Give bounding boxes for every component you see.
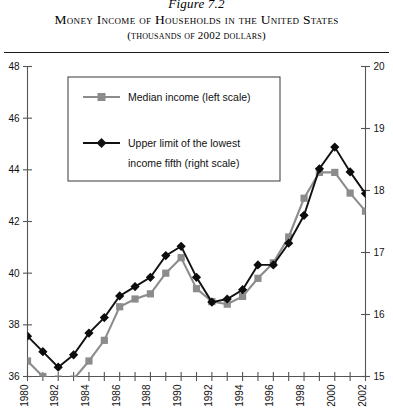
left-axis-tick-label: 42: [8, 216, 20, 227]
left-axis-tick-label: 38: [8, 319, 20, 330]
left-axis-tick-label: 44: [8, 164, 20, 175]
data-point-marker: [147, 290, 154, 297]
right-axis-tick-label: 17: [374, 247, 386, 258]
x-axis-tick-label: 1982: [49, 384, 60, 407]
x-axis-tick-label: 1998: [295, 384, 306, 407]
data-point-marker: [331, 169, 338, 176]
data-point-marker: [24, 357, 31, 364]
legend-label-upper-line1: Upper limit of the lowest: [128, 137, 240, 149]
chart-legend: Median income (left scale)Upper limit of…: [68, 77, 280, 181]
right-axis-tick-label: 20: [374, 61, 386, 72]
data-point-marker: [85, 357, 92, 364]
right-axis-tick-label: 15: [374, 371, 386, 382]
data-point-marker: [362, 208, 369, 215]
left-axis-tick-label: 48: [8, 61, 20, 72]
legend-label-median: Median income (left scale): [128, 91, 251, 103]
figure-container: Figure 7.2 Money Income of Households in…: [0, 0, 393, 418]
x-axis-tick-label: 1988: [141, 384, 152, 407]
figure-number: Figure 7.2: [0, 0, 393, 10]
x-axis-tick-label: 1980: [19, 384, 30, 407]
data-point-marker: [101, 337, 108, 344]
left-axis-tick-label: 46: [8, 113, 20, 124]
x-axis-tick-label: 1984: [80, 384, 91, 407]
data-point-marker: [177, 242, 186, 251]
data-point-marker: [178, 254, 185, 261]
x-axis-tick-label: 2002: [357, 384, 368, 407]
data-point-marker: [130, 282, 139, 291]
data-point-marker: [193, 285, 200, 292]
data-point-marker: [299, 211, 308, 220]
data-point-marker: [254, 275, 261, 282]
legend-marker-square: [98, 93, 106, 101]
data-point-marker: [300, 195, 307, 202]
right-axis-tick-label: 19: [374, 123, 386, 134]
data-point-marker: [131, 295, 138, 302]
figure-subtitle: (thousands of 2002 dollars): [0, 29, 393, 42]
left-axis-tick-label: 40: [8, 268, 20, 279]
left-axis-tick-label: 36: [8, 371, 20, 382]
header-divider-rule: [4, 52, 389, 53]
data-point-marker: [253, 260, 262, 269]
data-point-marker: [116, 303, 123, 310]
x-axis-tick-label: 1994: [234, 384, 245, 407]
x-axis-tick-label: 1992: [203, 384, 214, 407]
data-point-marker: [347, 189, 354, 196]
right-axis-tick-label: 16: [374, 309, 386, 320]
x-axis-tick-label: 1986: [111, 384, 122, 407]
x-axis-tick-label: 1996: [264, 384, 275, 407]
x-axis-tick-label: 2000: [326, 384, 337, 407]
x-axis-tick-label: 1990: [172, 384, 183, 407]
figure-title: Money Income of Households in the United…: [0, 12, 393, 28]
data-point-marker: [162, 270, 169, 277]
legend-label-upper-line2: income fifth (right scale): [128, 157, 239, 169]
right-axis-tick-label: 18: [374, 185, 386, 196]
figure-header: Figure 7.2 Money Income of Households in…: [0, 0, 393, 42]
chart-svg: 3638404244464815161718192019801982198419…: [0, 0, 393, 418]
